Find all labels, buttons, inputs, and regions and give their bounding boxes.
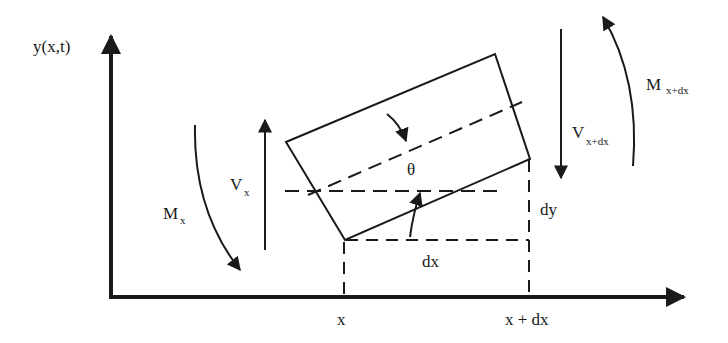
beam-element-diagram: y(x,t) x x + dx θ dx dy V x M x V x+dx M… [0,0,728,343]
shear-left-subscript: x [244,186,250,198]
beam-element [286,54,530,240]
centerline-dashed [308,102,522,195]
moment-left-label: M [163,204,178,223]
theta-arrow-lower-icon [410,193,420,237]
shear-right-subscript: x+dx [586,135,609,147]
dy-label: dy [540,200,558,219]
theta-label: θ [407,160,415,179]
axes [109,36,684,297]
moment-right-label: M [646,75,661,94]
x-tick-label-left: x [337,310,346,329]
x-tick-label-right: x + dx [505,310,549,329]
moment-left-subscript: x [180,214,186,226]
y-axis-label: y(x,t) [33,37,70,56]
shear-right-label: V [572,123,585,142]
moment-right-subscript: x+dx [666,84,689,96]
moment-left-arrow-icon [195,125,240,270]
dx-label: dx [422,252,440,271]
theta-arrow-upper-icon [387,114,406,141]
shear-left-label: V [230,175,243,194]
